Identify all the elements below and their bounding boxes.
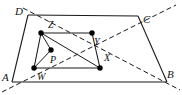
vertex-dot-W [31, 65, 36, 70]
geometry-figure: D C A B Z Y X W P [0, 0, 182, 95]
vertex-dot-P [48, 47, 53, 52]
side-DA [12, 15, 28, 82]
vertex-label-P: P [50, 55, 56, 65]
vertex-dot-Y [89, 30, 94, 35]
vertex-label-C: C [143, 14, 150, 25]
geometry-canvas [0, 0, 182, 95]
vertex-label-B: B [167, 69, 174, 80]
dashed-line-D-B-extended [23, 8, 180, 90]
vertex-label-X: X [104, 53, 110, 63]
side-ZW [34, 33, 41, 68]
vertex-label-Z: Z [48, 20, 54, 30]
vertex-label-W: W [37, 72, 45, 82]
point-P-spokes [34, 33, 100, 68]
vertex-label-D: D [15, 6, 23, 17]
side-CD [28, 15, 138, 16]
side-BC [138, 16, 167, 82]
vertex-label-A: A [2, 72, 9, 83]
vertex-dot-Z [38, 30, 43, 35]
vertex-dots-group [31, 30, 102, 70]
vertex-label-Y: Y [94, 37, 100, 47]
dashed-lines-group [2, 5, 180, 92]
vertex-dot-X [97, 65, 102, 70]
